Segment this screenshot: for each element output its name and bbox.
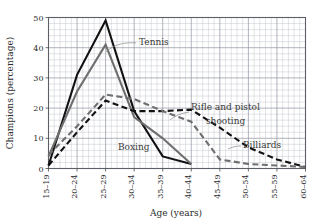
- y-axis-ticks: 01020304050: [33, 14, 48, 174]
- annotation-boxing: Boxing: [118, 142, 150, 152]
- y-tick-label: 40: [33, 44, 43, 53]
- y-tick-label: 20: [33, 104, 43, 113]
- champions-by-age-line-chart: 01020304050 15–1920–2425–2930–3435–3940–…: [0, 0, 325, 224]
- x-tick-label: 30–34: [127, 175, 136, 199]
- x-tick-label: 35–39: [156, 175, 165, 199]
- y-tick-label: 50: [33, 14, 43, 23]
- annotation-billiards: Billiards: [243, 140, 282, 150]
- x-tick-label: 20–24: [70, 175, 79, 199]
- x-tick-label: 40–44: [184, 175, 193, 199]
- y-axis-title: Champions (percentage): [5, 37, 15, 150]
- annotation-shooting: shooting: [206, 116, 246, 126]
- x-axis-title: Age (years): [149, 208, 202, 218]
- series-line-billiards: [49, 101, 306, 167]
- x-tick-label: 15–19: [42, 175, 51, 199]
- chart-container: 01020304050 15–1920–2425–2930–3435–3940–…: [0, 0, 325, 224]
- annotation-rifle-and-pistol: Rifle and pistol: [191, 102, 260, 112]
- annotation-tennis: Tennis: [139, 37, 169, 47]
- y-tick-label: 0: [38, 165, 43, 174]
- series-line-rifle-and-pistol-shooting: [49, 95, 306, 167]
- x-tick-label: 50–54: [241, 175, 250, 199]
- x-tick-label: 25–29: [99, 175, 108, 199]
- x-tick-label: 60–64: [299, 175, 308, 199]
- x-tick-label: 45–49: [213, 175, 222, 199]
- leader-line: [228, 146, 241, 149]
- x-tick-label: 55–59: [270, 175, 279, 199]
- x-axis-ticks: 15–1920–2425–2930–3435–3940–4445–4950–54…: [42, 169, 308, 199]
- y-tick-label: 30: [33, 74, 43, 83]
- y-tick-label: 10: [33, 134, 43, 143]
- leader-line: [170, 112, 189, 120]
- series-annotations: TennisBoxingRifle and pistolshootingBill…: [118, 37, 282, 152]
